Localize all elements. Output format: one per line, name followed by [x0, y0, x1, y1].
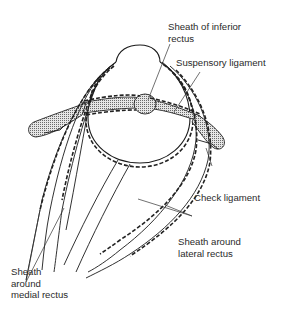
label-suspensory-ligament: Suspensory ligament: [176, 57, 266, 69]
leader-inferior-rectus: [148, 44, 170, 100]
inferior-rectus-strands: [64, 160, 130, 272]
suspensory-ligament-band: [82, 94, 202, 122]
label-check-ligament: Check ligament: [194, 192, 260, 204]
label-sheath-lateral-rectus: Sheath around lateral rectus: [178, 236, 241, 259]
eye-fascia-diagram: Sheath of inferior rectus Suspensory lig…: [0, 0, 290, 315]
label-sheath-inferior-rectus: Sheath of inferior rectus: [168, 21, 241, 44]
label-sheath-medial-rectus: Sheath around medial rectus: [11, 266, 68, 301]
medial-rectus-sheath: [26, 64, 114, 280]
